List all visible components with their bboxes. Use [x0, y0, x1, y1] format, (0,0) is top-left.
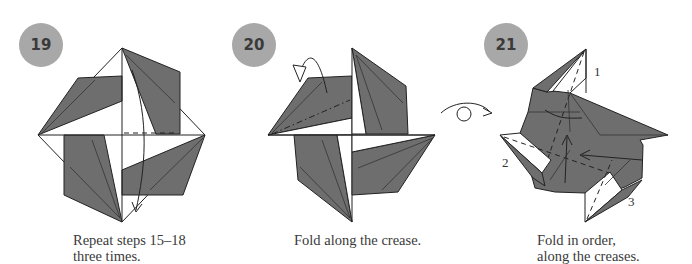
- fold-label-2: 2: [502, 155, 509, 171]
- step-21-caption: Fold in order, along the creases.: [537, 232, 640, 264]
- fold-label-1: 1: [594, 64, 601, 80]
- fold-label-3: 3: [628, 194, 635, 210]
- step-21: 21 1 2 3 Fold in order, along the cre: [460, 0, 692, 263]
- step-21-diagram: [460, 0, 692, 263]
